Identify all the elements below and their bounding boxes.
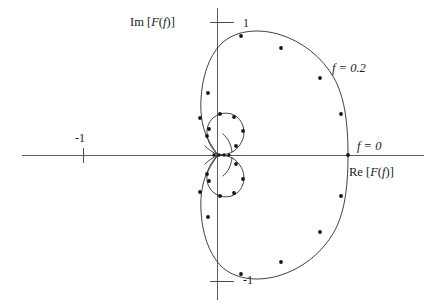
marker-point xyxy=(198,116,202,120)
side-lobe-upper-path xyxy=(207,113,244,155)
marker-point xyxy=(339,112,343,116)
marker-point xyxy=(234,162,238,166)
main-lobe-upper-path xyxy=(201,31,348,155)
marker-point xyxy=(198,190,202,194)
marker-point xyxy=(207,179,211,183)
marker-point xyxy=(279,46,283,50)
marker-point xyxy=(234,144,238,148)
tick-label-im-negative-one: -1 xyxy=(243,274,253,286)
side-lobe-lower-path xyxy=(207,155,244,197)
marker-point xyxy=(205,134,209,138)
marker-point xyxy=(205,172,209,176)
plot-canvas xyxy=(0,0,428,308)
marker-point xyxy=(241,177,245,181)
marker-point xyxy=(232,191,236,195)
marker-point xyxy=(241,129,245,133)
marker-point xyxy=(279,260,283,264)
marker-origin-cluster xyxy=(212,153,215,156)
marker-point xyxy=(239,34,243,38)
tick-label-re-negative-one: -1 xyxy=(75,132,85,144)
marker-point xyxy=(218,112,222,116)
marker-point xyxy=(218,194,222,198)
marker-f-0p2 xyxy=(318,76,322,80)
origin-hook-upper-path xyxy=(223,134,232,152)
marker-point xyxy=(207,127,211,131)
marker-point xyxy=(206,215,210,219)
marker-origin-cluster xyxy=(222,153,225,156)
origin-hook-lower-path xyxy=(223,158,232,176)
marker-point xyxy=(206,91,210,95)
main-lobe-lower-path xyxy=(201,155,348,279)
real-axis-label: Re [F(f)] xyxy=(349,166,394,179)
annotation-f-equals-zero: f = 0 xyxy=(357,140,381,153)
marker-point xyxy=(318,230,322,234)
tick-label-im-positive-one: 1 xyxy=(243,17,249,29)
marker-origin-cluster xyxy=(227,153,230,156)
marker-f-0 xyxy=(346,153,350,157)
annotation-f-equals-point-two: f = 0.2 xyxy=(332,62,366,75)
marker-point xyxy=(232,115,236,119)
nyquist-polar-plot-figure: Im [F(f)] Re [F(f)] 1 -1 -1 f = 0 f = 0.… xyxy=(0,0,428,308)
marker-point xyxy=(339,194,343,198)
tick-marks-group xyxy=(84,23,235,282)
imaginary-axis-label: Im [F(f)] xyxy=(130,16,175,29)
marker-origin-cluster xyxy=(217,153,220,156)
